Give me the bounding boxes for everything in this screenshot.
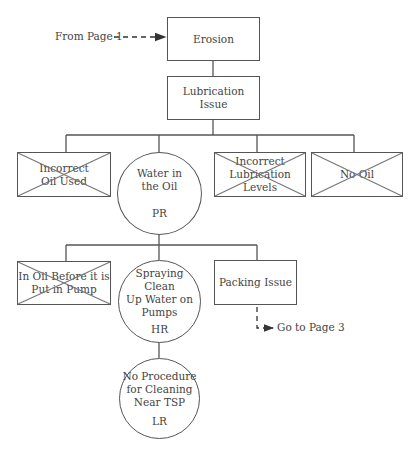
node-line: Water in xyxy=(137,167,182,180)
node-line: Pumps xyxy=(142,306,178,319)
node-water-in-oil: Water in the Oil PR xyxy=(117,152,202,235)
risk-rating: LR xyxy=(152,415,167,428)
node-line: Near TSP xyxy=(134,396,185,409)
node-erosion: Erosion xyxy=(167,17,260,61)
connector-lines xyxy=(0,0,419,457)
go-to-page-3-label: Go to Page 3 xyxy=(277,321,345,333)
node-no-oil: No Oil xyxy=(311,152,403,197)
node-incorrect-lubrication-levels: Incorrect Lubrication Levels xyxy=(214,152,306,197)
node-line: Up Water on xyxy=(126,293,193,306)
node-spraying-clean-up-water: Spraying Clean Up Water on Pumps HR xyxy=(118,260,201,343)
node-line: No Procedure xyxy=(122,370,196,383)
cross-out-icon xyxy=(17,152,111,197)
from-page-1-label: From Page 1 xyxy=(55,30,123,42)
node-line: Packing Issue xyxy=(219,276,292,289)
risk-rating: HR xyxy=(151,323,168,336)
node-lubrication-issue-label: Lubrication Issue xyxy=(168,85,259,111)
node-incorrect-oil-used: Incorrect Oil Used xyxy=(17,152,111,197)
node-no-procedure-cleaning: No Procedure for Cleaning Near TSP LR xyxy=(119,358,200,439)
risk-rating: PR xyxy=(152,207,167,220)
node-line: for Cleaning xyxy=(126,383,192,396)
cross-out-icon xyxy=(311,152,403,197)
node-packing-issue: Packing Issue xyxy=(214,260,297,305)
cross-out-icon xyxy=(214,152,306,197)
cross-out-icon xyxy=(17,261,111,305)
node-lubrication-issue: Lubrication Issue xyxy=(167,76,260,120)
node-line: Spraying Clean xyxy=(119,267,200,293)
node-in-oil-before-pump: In Oil Before it is Put in Pump xyxy=(17,261,111,305)
node-line: the Oil xyxy=(142,180,178,193)
node-erosion-label: Erosion xyxy=(193,33,234,46)
